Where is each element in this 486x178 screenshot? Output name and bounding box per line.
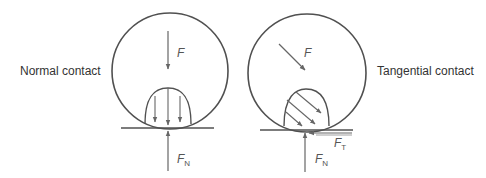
traction-arrow-icon [286, 112, 302, 126]
normal-force-label-right: FN [315, 152, 328, 168]
inclined-force-arrow-icon [279, 44, 305, 70]
tangential-contact-panel: Tangential contact F FT FN [248, 14, 474, 172]
force-label-left: F [177, 46, 185, 60]
traction-arrow-icon [287, 100, 315, 124]
force-label-right: F [304, 46, 312, 60]
normal-force-label-left: FN [177, 152, 190, 168]
traction-distribution-right [284, 89, 329, 126]
tangential-contact-label: Tangential contact [377, 64, 474, 78]
normal-contact-label: Normal contact [20, 64, 101, 78]
wheel-circle-right [248, 14, 366, 132]
wheel-circle-left [112, 13, 228, 129]
normal-contact-panel: Normal contact F FN [20, 13, 228, 171]
traction-arrow-icon [296, 92, 321, 113]
contact-diagram: Normal contact F FN Tangential contact F [0, 0, 486, 178]
tangential-force-label: FT [334, 136, 346, 152]
